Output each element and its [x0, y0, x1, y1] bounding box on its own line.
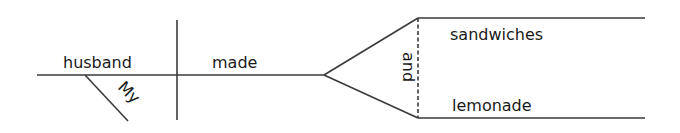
- object-word-sandwiches: sandwiches: [450, 25, 543, 44]
- sentence-diagram: husband made My and sandwiches lemonade: [0, 0, 680, 133]
- verb-word: made: [212, 53, 257, 72]
- conjunction-word: and: [399, 52, 418, 82]
- subject-word: husband: [63, 53, 132, 72]
- object-word-lemonade: lemonade: [452, 96, 532, 115]
- modifier-word: My: [114, 77, 144, 107]
